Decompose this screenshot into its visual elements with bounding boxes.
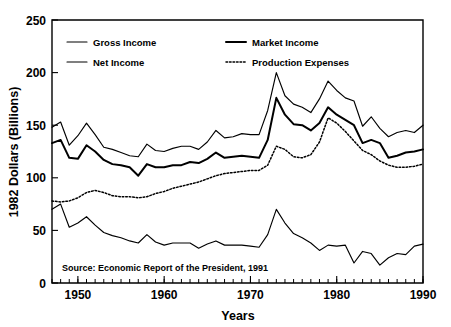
legend-label-net-income: Net Income: [93, 57, 144, 68]
x-tick-label: 1980: [323, 288, 350, 302]
x-tick-label: 1970: [237, 288, 264, 302]
source-annotation: Source: Economic Report of the President…: [62, 263, 268, 273]
y-tick-label: 200: [26, 66, 46, 80]
y-tick-label: 50: [33, 224, 47, 238]
legend-label-market-income: Market Income: [252, 37, 319, 48]
y-axis-title: 1982 Dollars (Billions): [7, 87, 21, 218]
x-tick-label: 1950: [65, 288, 92, 302]
line-chart: 050100150200250 19501960197019801990 198…: [0, 0, 451, 327]
legend-label-gross-income: Gross Income: [93, 37, 156, 48]
y-tick-label: 250: [26, 14, 46, 28]
legend-label-production-expenses: Production Expenses: [252, 57, 349, 68]
y-tick-label: 100: [26, 171, 46, 185]
y-tick-label: 150: [26, 119, 46, 133]
x-tick-label: 1990: [410, 288, 437, 302]
y-tick-label: 0: [39, 277, 46, 291]
chart-figure: 050100150200250 19501960197019801990 198…: [0, 0, 451, 327]
x-tick-label: 1960: [151, 288, 178, 302]
x-axis-title: Years: [221, 309, 254, 323]
